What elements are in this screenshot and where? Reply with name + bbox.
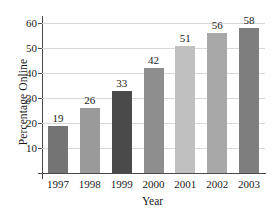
bar-value-label: 26 (84, 94, 95, 106)
bar: 19 (48, 126, 68, 174)
bar-value-label: 58 (244, 14, 255, 26)
bar-value-label: 56 (212, 19, 223, 31)
bar: 42 (144, 68, 164, 173)
x-axis-tick-label: 2002 (206, 178, 228, 190)
bar-value-label: 42 (148, 54, 159, 66)
y-axis-tick-label: 30 (26, 92, 37, 104)
x-axis-line (38, 173, 266, 174)
bar: 58 (239, 28, 259, 173)
x-axis-tick-label: 1998 (79, 178, 101, 190)
y-axis-tick-label: 60 (26, 17, 37, 29)
y-axis-tick-mark (38, 23, 42, 24)
y-axis-tick-mark (38, 48, 42, 49)
y-axis-tick-label: 50 (26, 42, 37, 54)
bar: 56 (207, 33, 227, 173)
bar: 26 (80, 108, 100, 173)
bar: 33 (112, 91, 132, 174)
x-axis-tick-label: 2000 (143, 178, 165, 190)
x-axis-tick-label: 2003 (238, 178, 260, 190)
bar-value-label: 19 (52, 112, 63, 124)
y-axis-tick-label: 20 (26, 117, 37, 129)
y-axis-tick-mark (38, 123, 42, 124)
x-axis-tick-label: 1997 (47, 178, 69, 190)
y-axis-tick-label: 40 (26, 67, 37, 79)
gridline (42, 48, 265, 49)
bar-chart: Percentage Online 102030405060 192633425… (0, 0, 272, 213)
bar-value-label: 51 (180, 32, 191, 44)
y-axis-tick-label: 10 (26, 142, 37, 154)
y-axis-tick-mark (38, 148, 42, 149)
x-axis-tick-label: 1999 (111, 178, 133, 190)
x-axis-title: Year (40, 195, 265, 207)
y-axis-tick-mark (38, 98, 42, 99)
x-axis-tick-label: 2001 (174, 178, 196, 190)
bar-value-label: 33 (116, 77, 127, 89)
plot-area: 102030405060 19263342515658 (42, 18, 265, 173)
y-axis-tick-mark (38, 73, 42, 74)
gridline (42, 23, 265, 24)
bar: 51 (175, 46, 195, 174)
